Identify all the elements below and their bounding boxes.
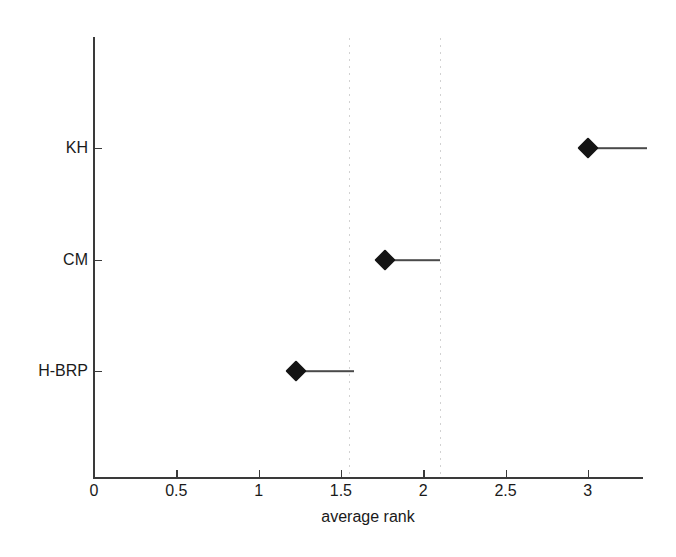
x-tick-label: 1.5 [330,482,352,500]
gridline-2 [440,38,441,477]
x-tick-mark [94,470,95,477]
diamond-marker-kh [577,137,598,158]
y-tick-mark [94,148,102,149]
x-tick-label: 0 [90,482,99,500]
x-tick-mark [506,470,507,477]
x-axis-title: average rank [0,508,676,526]
x-tick-mark [423,470,424,477]
x-tick-mark [259,470,260,477]
x-tick-label: 1 [254,482,263,500]
y-tick-mark [94,371,102,372]
diamond-marker-h-brp [286,360,307,381]
diamond-marker-cm [375,249,396,270]
y-tick-mark [94,260,102,261]
x-tick-mark [341,470,342,477]
plot-area: 00.511.522.53 KHCMH-BRP average rank [0,0,676,557]
x-tick-label: 2 [419,482,428,500]
x-tick-mark [588,470,589,477]
x-tick-label: 0.5 [165,482,187,500]
y-tick-label-cm: CM [63,251,88,269]
x-tick-mark [176,470,177,477]
y-tick-label-h-brp: H-BRP [38,362,88,380]
x-axis-title-text: average rank [321,508,414,525]
gridline-1 [349,38,350,477]
x-tick-label: 3 [583,482,592,500]
y-axis-line [93,37,95,478]
y-tick-label-kh: KH [66,139,88,157]
x-tick-label: 2.5 [494,482,516,500]
chart-page: 00.511.522.53 KHCMH-BRP average rank [0,0,676,557]
x-axis-line [93,477,643,479]
